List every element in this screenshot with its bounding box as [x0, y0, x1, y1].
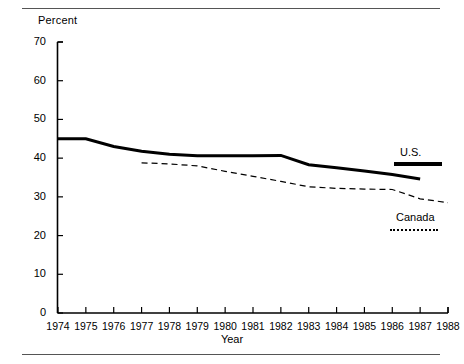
chart-canvas	[0, 0, 464, 364]
series-line-canada	[142, 163, 448, 203]
x-axis-title: Year	[0, 333, 464, 345]
series-line-us	[58, 139, 420, 179]
legend-label-us: U.S.	[400, 146, 421, 158]
y-tick-label: 10	[20, 267, 46, 279]
y-tick-label: 60	[20, 74, 46, 86]
x-tick-label: 1988	[431, 320, 464, 332]
legend-label-canada: Canada	[396, 211, 435, 223]
y-tick-label: 0	[20, 306, 46, 318]
y-tick-label: 20	[20, 229, 46, 241]
line-chart	[0, 0, 464, 364]
y-tick-label: 30	[20, 190, 46, 202]
legend-swatch-us	[394, 162, 442, 166]
y-tick-label: 70	[20, 35, 46, 47]
legend-swatch-canada	[390, 229, 438, 231]
y-tick-label: 50	[20, 112, 46, 124]
y-tick-label: 40	[20, 151, 46, 163]
